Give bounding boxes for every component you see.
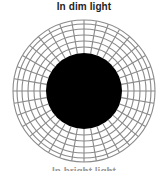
bottom-caption-clipped: In bright light <box>0 166 162 171</box>
iris-grid-graphic <box>0 0 162 173</box>
pupil-diagram: In dim light In bright light <box>0 0 162 173</box>
pupil-disk <box>46 53 122 129</box>
